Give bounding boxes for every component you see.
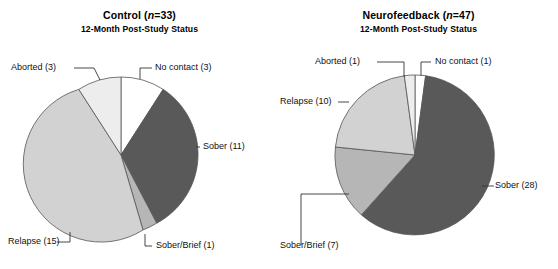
pie-label-sober-control: Sober (11) (203, 141, 245, 151)
leader-line-aborted-control (74, 68, 100, 80)
pie-label-aborted-neurofeedback: Aborted (1) (315, 56, 360, 66)
leader-line-no-contact-neurofeedback (421, 62, 431, 76)
pie-label-sober-neurofeedback: Sober (28) (495, 180, 538, 190)
figure-root: Control (n=33) 12-Month Post-Study Statu… (0, 0, 558, 269)
leader-line-aborted-neurofeedback (377, 62, 404, 77)
pie-chart-control (0, 0, 279, 269)
chart-panel-control: Control (n=33) 12-Month Post-Study Statu… (0, 0, 279, 269)
leader-line-sober-brief-neurofeedback (301, 194, 349, 245)
pie-label-relapse-control: Relapse (15) (8, 236, 60, 246)
leader-line-sober-brief-control (145, 234, 152, 246)
pie-label-relapse-neurofeedback: Relapse (10) (280, 96, 332, 106)
leader-line-no-contact-control (140, 68, 152, 79)
pie-label-no-contact-neurofeedback: No contact (1) (435, 56, 492, 66)
pie-label-sober-brief-control: Sober/Brief (1) (156, 240, 215, 250)
pie-label-sober-brief-neurofeedback: Sober/Brief (7) (280, 240, 339, 250)
pie-slice-relapse-neurofeedback (335, 76, 415, 155)
chart-panel-neurofeedback: Neurofeedback (n=47) 12-Month Post-Study… (279, 0, 558, 269)
pie-label-aborted-control: Aborted (3) (11, 62, 56, 72)
pie-label-no-contact-control: No contact (3) (155, 62, 212, 72)
pie-chart-neurofeedback (279, 0, 558, 269)
